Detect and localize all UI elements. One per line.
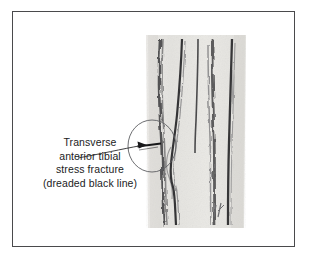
radiograph-illustration — [144, 35, 248, 228]
figure-page: Transverse anterior tibial stress fractu… — [0, 0, 312, 258]
caption-line-4: (dreaded black line) — [31, 177, 149, 191]
caption-line-1: Transverse — [31, 136, 149, 150]
caption-line-3: stress fracture — [31, 163, 149, 177]
caption-line-2: anterior tibial — [31, 150, 149, 164]
figure-caption: Transverse anterior tibial stress fractu… — [31, 136, 149, 190]
figure-frame: Transverse anterior tibial stress fractu… — [12, 11, 295, 247]
